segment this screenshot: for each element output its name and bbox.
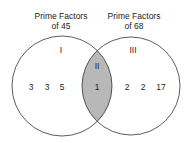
element: 2 [141, 82, 146, 92]
set-68-title-line2: of 68 [125, 21, 144, 31]
element: 3 [29, 82, 34, 92]
region-label-iii: III [129, 45, 136, 55]
venn-diagram: Prime Factors of 45 Prime Factors of 68 … [0, 0, 188, 143]
set-45-title-line2: of 45 [52, 21, 71, 31]
element: 5 [60, 82, 65, 92]
element: 17 [156, 82, 166, 92]
region-label-i: I [60, 45, 62, 55]
element: 2 [125, 82, 130, 92]
set-68-title-line1: Prime Factors [108, 11, 161, 21]
element: 3 [45, 82, 50, 92]
set-45-title-line1: Prime Factors [35, 11, 88, 21]
element: 1 [95, 82, 100, 92]
region-label-ii: II [95, 61, 100, 71]
